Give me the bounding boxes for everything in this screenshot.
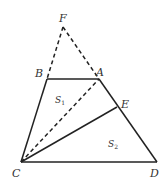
segment-FB [47,27,63,79]
segment-CA [21,79,99,162]
label-F: F [58,12,67,25]
label-D: D [149,167,159,180]
segment-AD [99,79,157,162]
segment-FA [63,27,99,79]
label-C: C [12,167,21,180]
label-B: B [34,67,43,80]
label-E: E [120,98,129,111]
geometry-diagram: F B A E C D S1 S2 [0,0,168,190]
region-S1-label: S1 [55,95,65,106]
label-A: A [95,66,104,79]
region-S2-label: S2 [108,139,118,150]
